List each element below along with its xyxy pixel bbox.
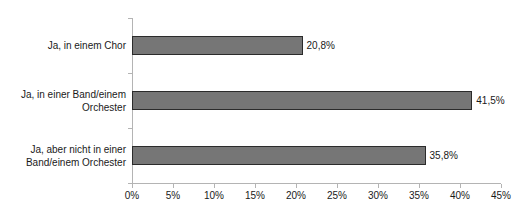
bar-value-label: 20,8% xyxy=(303,36,335,55)
x-axis-tick xyxy=(132,184,133,188)
x-axis-tick xyxy=(337,184,338,188)
x-axis-tick-label: 15% xyxy=(235,190,275,201)
x-axis-tick xyxy=(214,184,215,188)
x-axis-tick-label: 35% xyxy=(399,190,439,201)
x-axis-tick-label: 10% xyxy=(194,190,234,201)
x-axis-tick xyxy=(378,184,379,188)
x-axis-tick xyxy=(173,184,174,188)
x-axis-tick-label: 20% xyxy=(276,190,316,201)
x-axis-tick-label: 40% xyxy=(440,190,480,201)
bar-chart: Ja, in einem Chor 20,8% Ja, in einer Ban… xyxy=(0,0,513,214)
x-axis-tick xyxy=(460,184,461,188)
x-axis-tick-label: 30% xyxy=(358,190,398,201)
bar-segment xyxy=(132,146,426,165)
category-label: Ja, in einem Chor xyxy=(0,18,126,73)
bar-segment xyxy=(132,91,472,110)
x-axis-tick-label: 25% xyxy=(317,190,357,201)
x-axis-tick xyxy=(296,184,297,188)
x-axis-tick-label: 5% xyxy=(153,190,193,201)
bar-value-label: 41,5% xyxy=(472,91,504,110)
category-label: Ja, aber nicht in einer Band/einem Orche… xyxy=(0,128,126,183)
x-axis-tick xyxy=(255,184,256,188)
bar-row: Ja, in einem Chor 20,8% xyxy=(0,18,513,73)
bar-row: Ja, aber nicht in einer Band/einem Orche… xyxy=(0,128,513,183)
x-axis-tick-label: 0% xyxy=(112,190,152,201)
bar-value-label: 35,8% xyxy=(426,146,458,165)
x-axis-tick xyxy=(501,184,502,188)
bar-segment xyxy=(132,36,303,55)
category-label: Ja, in einer Band/einem Orchester xyxy=(0,73,126,128)
bar-row: Ja, in einer Band/einem Orchester 41,5% xyxy=(0,73,513,128)
x-axis-tick xyxy=(419,184,420,188)
x-axis-line xyxy=(132,183,501,184)
x-axis-tick-label: 45% xyxy=(481,190,513,201)
